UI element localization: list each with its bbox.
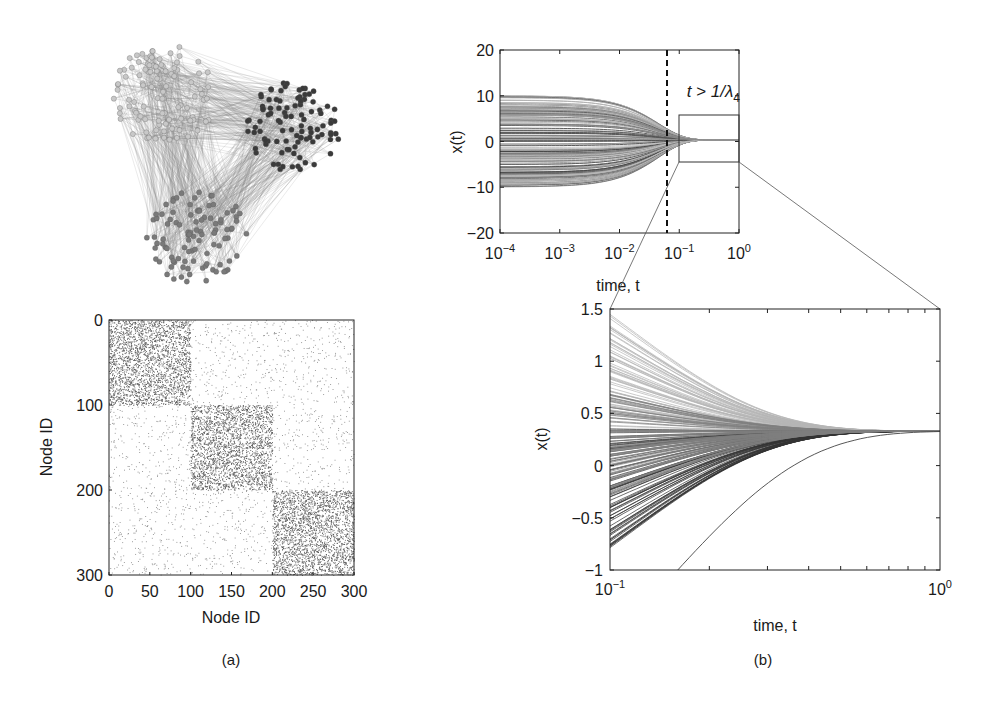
figure: 0501001502002503000100200300 Node ID Nod… [0, 0, 988, 705]
threshold-annotation: t > 1/λ4 [687, 82, 741, 105]
svg-text:300: 300 [76, 567, 103, 584]
svg-text:0: 0 [485, 134, 494, 151]
svg-text:100: 100 [177, 583, 204, 600]
zoom-connector-right [739, 162, 940, 309]
svg-text:0: 0 [594, 458, 603, 475]
svg-text:10−3: 10−3 [545, 242, 575, 262]
svg-text:10−1: 10−1 [664, 242, 694, 262]
svg-text:150: 150 [218, 583, 245, 600]
svg-text:0: 0 [94, 312, 103, 329]
adjacency-matrix-plot: 0501001502002503000100200300 Node ID Nod… [38, 312, 367, 626]
svg-text:−10: −10 [467, 179, 494, 196]
svg-text:300: 300 [341, 583, 368, 600]
svg-text:100: 100 [727, 242, 751, 262]
consensus-zoom-trajectories [610, 314, 940, 643]
zoom-connector-left [610, 162, 679, 309]
svg-text:10−1: 10−1 [595, 578, 625, 598]
svg-text:0.5: 0.5 [581, 405, 603, 422]
svg-text:200: 200 [76, 482, 103, 499]
svg-text:10−4: 10−4 [485, 242, 515, 262]
svg-text:−0.5: −0.5 [571, 510, 603, 527]
svg-text:−20: −20 [467, 225, 494, 242]
svg-text:100: 100 [928, 578, 952, 598]
panel-label-b: (b) [754, 651, 772, 668]
svg-text:50: 50 [141, 583, 159, 600]
adjacency-y-label: Node ID [38, 418, 55, 477]
svg-text:200: 200 [259, 583, 286, 600]
svg-text:100: 100 [76, 397, 103, 414]
adjacency-dots [109, 320, 355, 576]
adjacency-x-label: Node ID [202, 609, 261, 626]
consensus-full-y-label: x(t) [448, 130, 465, 153]
network-graph [111, 44, 341, 284]
consensus-zoom-plot: 10−11001.510.50−0.5−1 time, t x(t) [533, 301, 952, 643]
consensus-full-trajectories [500, 96, 739, 187]
panel-label-a: (a) [222, 651, 240, 668]
svg-text:20: 20 [476, 42, 494, 59]
svg-text:10−2: 10−2 [604, 242, 634, 262]
svg-text:10: 10 [476, 88, 494, 105]
consensus-zoom-y-label: x(t) [533, 427, 550, 450]
svg-text:1.5: 1.5 [581, 301, 603, 318]
svg-text:−1: −1 [585, 562, 603, 579]
svg-text:0: 0 [105, 583, 114, 600]
consensus-full-plot: 10−410−310−210−110020100−10−20 t > 1/λ4 … [448, 42, 940, 309]
svg-text:250: 250 [300, 583, 327, 600]
svg-text:1: 1 [594, 353, 603, 370]
consensus-zoom-x-label: time, t [753, 617, 797, 634]
